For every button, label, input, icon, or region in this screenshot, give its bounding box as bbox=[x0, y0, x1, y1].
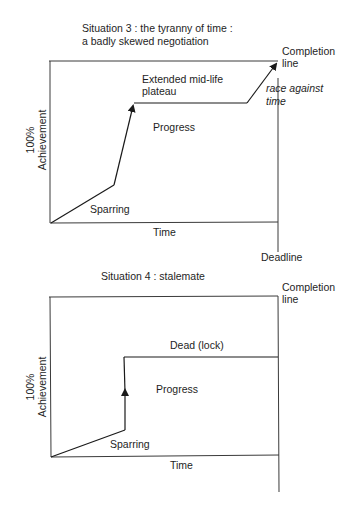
diagram-2-y-axis-label-line1: 100% bbox=[24, 347, 36, 427]
diagram-1-x-axis-label: Time bbox=[153, 226, 176, 239]
diagram-1-y-axis-label-line2: Achievement bbox=[36, 100, 48, 180]
diagram-2-x-axis-label: Time bbox=[170, 459, 193, 472]
diagram-1-deadline-label: Deadline bbox=[261, 251, 302, 264]
diagram-1-title-line1: Situation 3 : the tyranny of time : bbox=[82, 22, 233, 35]
diagram-1-race-label-line1: race against bbox=[266, 82, 323, 95]
diagram-1-plateau-label-line2: plateau bbox=[142, 85, 176, 98]
diagram-1-y-axis-label-line1: 100% bbox=[24, 100, 36, 180]
diagram-2-title: Situation 4 : stalemate bbox=[101, 270, 205, 283]
diagram-2-y-axis-label: 100% Achievement bbox=[24, 347, 48, 427]
diagram-1-x-axis bbox=[50, 222, 278, 223]
diagram-1-progress-rise bbox=[114, 106, 133, 185]
diagram-1-race-label-line2: time bbox=[266, 95, 286, 108]
diagram-2-top-line bbox=[49, 296, 278, 297]
diagram-2-sparring-label: Sparring bbox=[110, 438, 150, 451]
diagram-1-y-axis-label: 100% Achievement bbox=[24, 100, 48, 180]
diagram-1-title-line2: a badly skewed negotiation bbox=[82, 35, 209, 48]
diagram-2-completion-vertical bbox=[278, 296, 279, 492]
diagram-1-sparring-label: Sparring bbox=[90, 203, 130, 216]
diagram-2-progress-label: Progress bbox=[156, 383, 198, 396]
diagram-2-y-axis-label-line2: Achievement bbox=[36, 347, 48, 427]
diagram-2-deadlock-label: Dead (lock) bbox=[170, 339, 224, 352]
diagram-1-progress-label: Progress bbox=[153, 121, 195, 134]
diagram-1-completion-label-line2: line bbox=[282, 57, 298, 70]
diagram-2-completion-label-line2: line bbox=[282, 293, 298, 306]
diagram-2-progress-rise-upper bbox=[124, 357, 125, 392]
diagram-2-y-axis bbox=[50, 297, 51, 457]
diagram-2-x-axis bbox=[51, 455, 279, 457]
